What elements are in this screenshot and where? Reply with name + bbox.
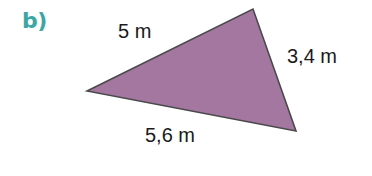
side-label-bottom: 5,6 m: [145, 125, 195, 145]
triangle-shape: [0, 0, 372, 176]
triangle-figure: b) 5 m 3,4 m 5,6 m: [0, 0, 372, 176]
side-label-top-left: 5 m: [118, 21, 151, 41]
side-label-right: 3,4 m: [287, 46, 337, 66]
